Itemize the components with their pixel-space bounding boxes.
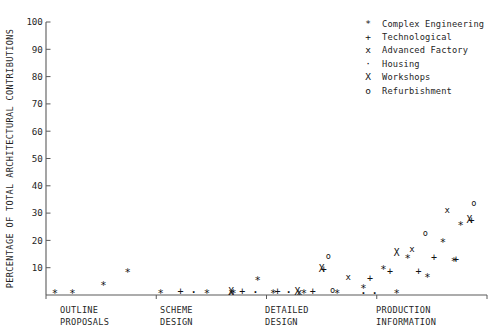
x-axis-category-label: DETAILED <box>265 305 309 315</box>
y-axis-tick-label: 70 <box>32 98 43 109</box>
legend-label: Advanced Factory <box>382 45 468 55</box>
legend-label: Complex Engineering <box>382 19 484 29</box>
legend-asterisk-marker: * <box>365 18 371 29</box>
y-axis-tick-label: 30 <box>32 207 43 218</box>
y-axis-tick-label: 10 <box>32 262 43 273</box>
data-point-·: · <box>360 285 368 300</box>
legend-label: Refurbishment <box>382 86 452 96</box>
data-point-·: · <box>252 284 260 299</box>
y-axis-tick-label: 50 <box>32 153 43 164</box>
data-point-o: o <box>423 228 428 238</box>
x-axis-category-label: PROPOSALS <box>60 317 109 327</box>
data-point-·: · <box>371 285 379 300</box>
legend-plus-marker: + <box>365 31 371 42</box>
data-point-*: * <box>424 271 430 283</box>
x-axis-category-label: INFORMATION <box>376 317 436 327</box>
y-axis-title-text: PERCENTAGE OF TOTAL ARCHITECTURAL CONTRI… <box>5 29 15 289</box>
data-point-+: + <box>275 286 281 297</box>
data-point-X: X <box>319 263 325 274</box>
legend-dot-marker: · <box>365 58 371 69</box>
x-axis-category-label: DESIGN <box>160 317 193 327</box>
data-point-*: * <box>440 236 446 248</box>
data-point-*: * <box>52 287 58 299</box>
y-axis-title: PERCENTAGE OF TOTAL ARCHITECTURAL CONTRI… <box>5 29 15 289</box>
data-point-X: X <box>228 286 234 297</box>
data-point-*: * <box>100 279 106 291</box>
data-point-*: * <box>393 287 399 299</box>
y-axis-tick-label: 90 <box>32 44 43 55</box>
y-axis-tick-label: 20 <box>32 235 43 246</box>
legend-uppercase-x-marker: X <box>365 71 371 82</box>
chart-container: 100908070605040302010 PERCENTAGE OF TOTA… <box>0 0 494 334</box>
data-point-*: * <box>69 287 75 299</box>
data-point-+: + <box>239 286 245 297</box>
legend-label: Workshops <box>382 72 430 82</box>
data-point-X: X <box>466 214 472 225</box>
data-point-·: · <box>285 284 293 299</box>
data-point-·: · <box>190 284 198 299</box>
legend: *Complex Engineering+TechnologicalxAdvan… <box>365 18 484 96</box>
data-point-*: * <box>124 266 130 278</box>
y-axis: 100908070605040302010 <box>27 16 51 295</box>
x-axis-category-label: DESIGN <box>265 317 298 327</box>
data-point-*: * <box>157 287 163 299</box>
data-point-o: o <box>326 251 331 261</box>
data-point-+: + <box>387 266 393 277</box>
data-point-x: x <box>445 205 451 215</box>
x-axis-category-label: PRODUCTION <box>376 305 431 315</box>
y-axis-tick-label: 100 <box>27 16 43 27</box>
data-point-+: + <box>453 254 459 265</box>
x-axis <box>46 295 487 299</box>
legend-label: Housing <box>382 59 420 69</box>
legend-circle-marker: o <box>365 85 371 96</box>
legend-label: Technological <box>382 32 452 42</box>
x-axis-category-labels: OUTLINEPROPOSALSSCHEMEDESIGNDETAILEDDESI… <box>60 305 436 327</box>
data-point-X: X <box>294 286 300 297</box>
data-point-o: o <box>330 285 335 295</box>
data-point-*: * <box>380 263 386 275</box>
y-axis-tick-label: 80 <box>32 71 43 82</box>
data-point-x: x <box>345 272 351 282</box>
y-axis-tick-label: 60 <box>32 126 43 137</box>
data-point-+: + <box>367 273 373 284</box>
x-axis-category-label: SCHEME <box>160 305 193 315</box>
data-points: *******************+++++++++++xxxxx·····… <box>52 198 477 300</box>
data-point-+: + <box>310 286 316 297</box>
data-point-x: x <box>409 244 415 254</box>
x-axis-category-label: OUTLINE <box>60 305 98 315</box>
data-point-o: o <box>471 198 476 208</box>
data-point-+: + <box>416 266 422 277</box>
data-point-*: * <box>204 287 210 299</box>
data-point-X: X <box>394 247 400 258</box>
data-point-*: * <box>457 219 463 231</box>
data-point-+: + <box>177 286 183 297</box>
data-point-+: + <box>431 252 437 263</box>
scatter-plot: 100908070605040302010 PERCENTAGE OF TOTA… <box>0 0 494 334</box>
legend-lowercase-x-marker: x <box>365 44 371 55</box>
y-axis-tick-label: 40 <box>32 180 43 191</box>
